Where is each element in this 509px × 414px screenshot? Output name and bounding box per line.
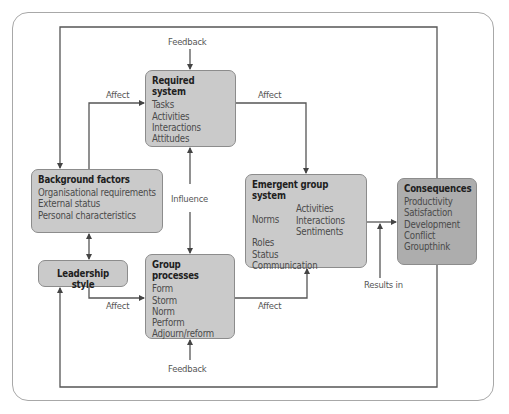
- emergent-item: Roles: [252, 237, 360, 248]
- required-item: Activities: [152, 111, 229, 122]
- background-item: Personal characteristics: [38, 210, 156, 221]
- group-item: Norm: [152, 306, 228, 317]
- emergent-item: Status: [252, 249, 360, 260]
- norms-item: Sentiments: [296, 226, 345, 237]
- norms-label: Norms: [252, 214, 279, 225]
- leadership-style-title: Leadership style: [45, 268, 121, 290]
- influence-label: Influence: [171, 193, 208, 204]
- consequences-title: Consequences: [404, 183, 470, 194]
- feedback-label-bottom: Feedback: [168, 363, 207, 374]
- affect-label-leadership-group: Affect: [106, 300, 129, 311]
- background-item: External status: [38, 198, 156, 209]
- background-factors-title: Background factors: [38, 174, 156, 185]
- emergent-title: Emergent group system: [252, 179, 360, 201]
- consequences-item: Satisfaction: [404, 207, 470, 218]
- required-system-box: Required system Tasks Activities Interac…: [145, 70, 236, 147]
- group-item: Perform: [152, 317, 228, 328]
- norms-item: Activities: [296, 203, 345, 214]
- group-processes-title: Group processes: [152, 259, 228, 281]
- group-item: Adjourn/reform: [152, 328, 228, 339]
- required-item: Tasks: [152, 99, 229, 110]
- required-system-title: Required system: [152, 75, 229, 97]
- background-item: Organisational requirements: [38, 187, 156, 198]
- affect-label-background-required: Affect: [106, 89, 129, 100]
- consequences-item: Development: [404, 219, 470, 230]
- background-factors-box: Background factors Organisational requir…: [31, 169, 163, 233]
- feedback-label-top: Feedback: [168, 36, 207, 47]
- emergent-group-system-box: Emergent group system Norms Activities I…: [245, 174, 367, 268]
- emergent-item: Communication: [252, 260, 360, 271]
- norms-item: Interactions: [296, 215, 345, 226]
- required-item: Attitudes: [152, 133, 229, 144]
- group-item: Storm: [152, 295, 228, 306]
- required-item: Interactions: [152, 122, 229, 133]
- affect-label-required-emergent: Affect: [258, 89, 281, 100]
- consequences-box: Consequences Productivity Satisfaction D…: [397, 178, 477, 265]
- affect-label-group-emergent: Affect: [258, 300, 281, 311]
- leadership-style-box: Leadership style: [38, 260, 128, 287]
- results-in-label: Results in: [364, 279, 403, 290]
- consequences-item: Conflict: [404, 230, 470, 241]
- group-item: Form: [152, 283, 228, 294]
- group-processes-box: Group processes Form Storm Norm Perform …: [145, 254, 235, 339]
- consequences-item: Groupthink: [404, 241, 470, 252]
- consequences-item: Productivity: [404, 196, 470, 207]
